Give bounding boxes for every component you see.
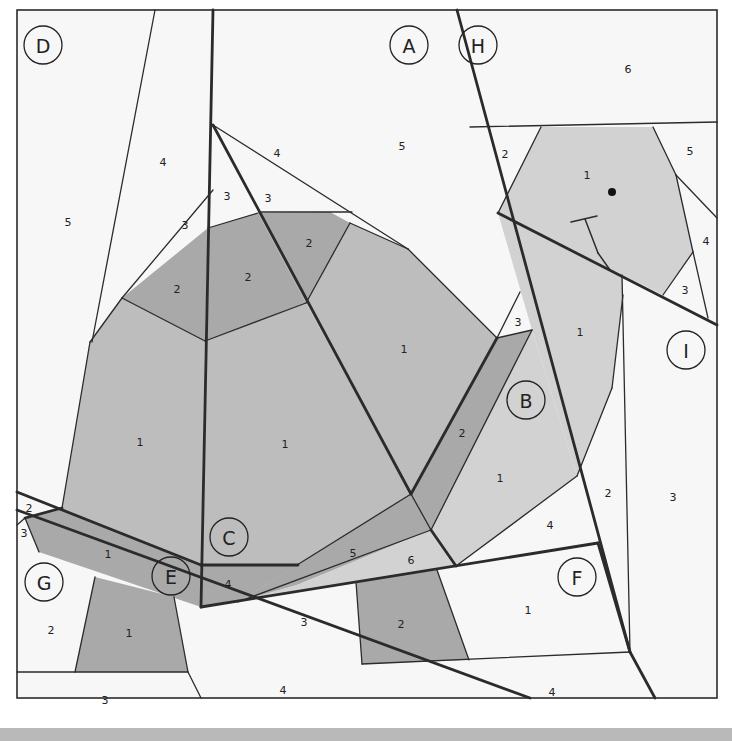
piece-number: 3: [515, 316, 522, 329]
piece-number: 4: [547, 519, 554, 532]
piece-number: 1: [497, 472, 504, 485]
piece-number: 4: [274, 147, 281, 160]
piece-number: 4: [703, 235, 710, 248]
piece-number: 2: [48, 624, 55, 637]
piece-number: 2: [245, 271, 252, 284]
eye-icon: [608, 188, 616, 196]
svg-text:H: H: [471, 35, 485, 57]
svg-text:A: A: [403, 35, 416, 57]
piece-number: 6: [625, 63, 632, 76]
piece-number: 1: [584, 169, 591, 182]
piece-number: 1: [577, 326, 584, 339]
piece-number: 3: [265, 192, 272, 205]
piece-number: 1: [401, 343, 408, 356]
piece-number: 1: [126, 627, 133, 640]
piece-number: 2: [174, 283, 181, 296]
piece-number: 5: [350, 547, 357, 560]
piece-number: 4: [549, 686, 556, 699]
piece-number: 5: [687, 145, 694, 158]
foundation-piecing-pattern: 4534533222111621543312123456423121332144…: [0, 0, 732, 741]
piece-number: 4: [225, 578, 232, 591]
piece-number: 3: [224, 190, 231, 203]
piece-number: 1: [525, 604, 532, 617]
piece-number: 2: [502, 148, 509, 161]
piece-number: 4: [280, 684, 287, 697]
piece-number: 3: [670, 491, 677, 504]
svg-text:D: D: [36, 35, 51, 57]
piece-number: 1: [137, 436, 144, 449]
svg-text:G: G: [37, 572, 52, 594]
piece-number: 2: [605, 487, 612, 500]
piece-number: 2: [306, 237, 313, 250]
piece-number: 3: [682, 284, 689, 297]
piece-number: 3: [21, 527, 28, 540]
piece-number: 3: [182, 219, 189, 232]
svg-text:F: F: [572, 567, 583, 589]
svg-text:C: C: [222, 527, 235, 549]
piece-number: 5: [65, 216, 72, 229]
svg-text:B: B: [519, 390, 532, 412]
piece-number: 5: [399, 140, 406, 153]
bottom-scroll-bar: [0, 728, 732, 741]
piece-number: 4: [160, 156, 167, 169]
piece-number: 2: [26, 502, 33, 515]
piece-number: 2: [398, 618, 405, 631]
piece-number: 6: [408, 554, 415, 567]
piece-number: 2: [459, 427, 466, 440]
svg-text:I: I: [683, 340, 689, 362]
piece-number: 3: [102, 694, 109, 707]
svg-text:E: E: [165, 566, 177, 588]
piece-number: 3: [301, 616, 308, 629]
piece-number: 1: [105, 548, 112, 561]
piece-number: 1: [282, 438, 289, 451]
